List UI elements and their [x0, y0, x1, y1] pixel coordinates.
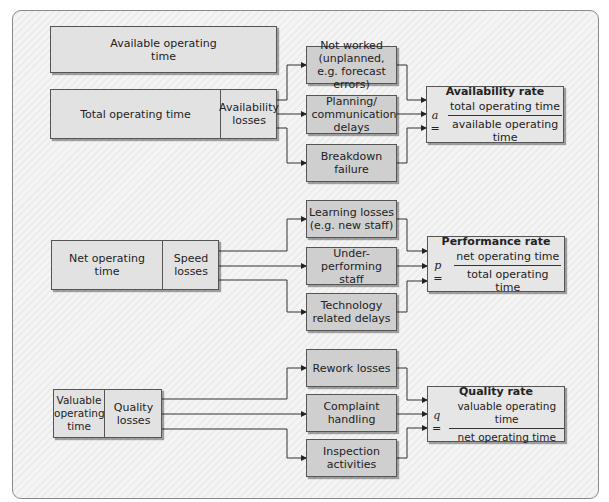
loss-rework-label: Rework losses: [313, 362, 391, 375]
total-operating-time-box: Total operating time Availability losses: [50, 89, 277, 139]
performance-variable: p =: [428, 259, 448, 285]
quality-rate-box: Quality rate q = valuable operating time…: [427, 386, 565, 442]
loss-under-performing-label: Under-performing staff: [308, 247, 396, 286]
availability-numerator: total operating time: [448, 100, 562, 116]
available-operating-time-label: Available operating time: [109, 37, 219, 63]
net-operating-time-segment: Net operating time: [52, 241, 163, 289]
quality-denominator: net operating time: [456, 429, 558, 444]
speed-losses-label: Speed losses: [171, 252, 211, 278]
performance-rate-formula: p = net operating time total operating t…: [428, 250, 564, 294]
loss-breakdown-box: Breakdown failure: [306, 144, 397, 182]
valuable-operating-time-segment: Valuable operating time: [54, 390, 105, 437]
loss-complaint-box: Complaint handling: [306, 394, 397, 432]
loss-learning-box: Learning losses (e.g. new staff): [306, 200, 397, 238]
loss-technology-label: Technology related delays: [309, 299, 395, 325]
quality-rate-formula: q = valuable operating time net operatin…: [428, 400, 564, 444]
availability-rate-title: Availability rate: [446, 85, 545, 98]
valuable-operating-time-box: Valuable operating time Quality losses: [53, 389, 162, 438]
total-operating-time-segment: Total operating time: [51, 90, 221, 138]
loss-learning-label: Learning losses (e.g. new staff): [307, 206, 396, 232]
performance-numerator: net operating time: [454, 250, 561, 266]
loss-inspection-label: Inspection activities: [322, 445, 382, 471]
quality-losses-label: Quality losses: [112, 401, 156, 427]
loss-complaint-label: Complaint handling: [322, 400, 382, 426]
quality-losses-segment: Quality losses: [105, 390, 162, 437]
availability-losses-segment: Availability losses: [221, 90, 277, 138]
quality-rate-title: Quality rate: [459, 385, 533, 398]
quality-numerator: valuable operating time: [449, 400, 564, 429]
loss-rework-box: Rework losses: [306, 349, 397, 387]
available-operating-time-box: Available operating time: [50, 26, 277, 73]
loss-breakdown-label: Breakdown failure: [321, 150, 383, 176]
net-operating-time-box: Net operating time Speed losses: [51, 240, 219, 290]
availability-denominator: available operating time: [447, 116, 563, 144]
loss-under-performing-box: Under-performing staff: [306, 247, 397, 285]
quality-variable: q =: [428, 409, 445, 435]
loss-planning-label: Planning/ communication delays: [312, 95, 392, 134]
availability-rate-formula: a = total operating time available opera…: [427, 100, 563, 144]
net-operating-time-label: Net operating time: [67, 252, 147, 278]
loss-planning-box: Planning/ communication delays: [306, 95, 397, 134]
total-operating-time-label: Total operating time: [80, 108, 191, 121]
availability-variable: a =: [427, 109, 443, 135]
performance-rate-title: Performance rate: [442, 235, 551, 248]
loss-inspection-box: Inspection activities: [306, 439, 397, 477]
loss-not-worked-box: Not worked (unplanned, e.g. forecast err…: [306, 46, 397, 84]
loss-not-worked-label: Not worked (unplanned, e.g. forecast err…: [307, 39, 396, 91]
performance-denominator: total operating time: [452, 266, 565, 294]
availability-losses-label: Availability losses: [219, 101, 279, 127]
performance-rate-box: Performance rate p = net operating time …: [427, 236, 565, 292]
speed-losses-segment: Speed losses: [163, 241, 219, 289]
loss-technology-box: Technology related delays: [306, 293, 397, 331]
valuable-operating-time-label: Valuable operating time: [54, 394, 104, 433]
availability-rate-box: Availability rate a = total operating ti…: [426, 86, 564, 143]
